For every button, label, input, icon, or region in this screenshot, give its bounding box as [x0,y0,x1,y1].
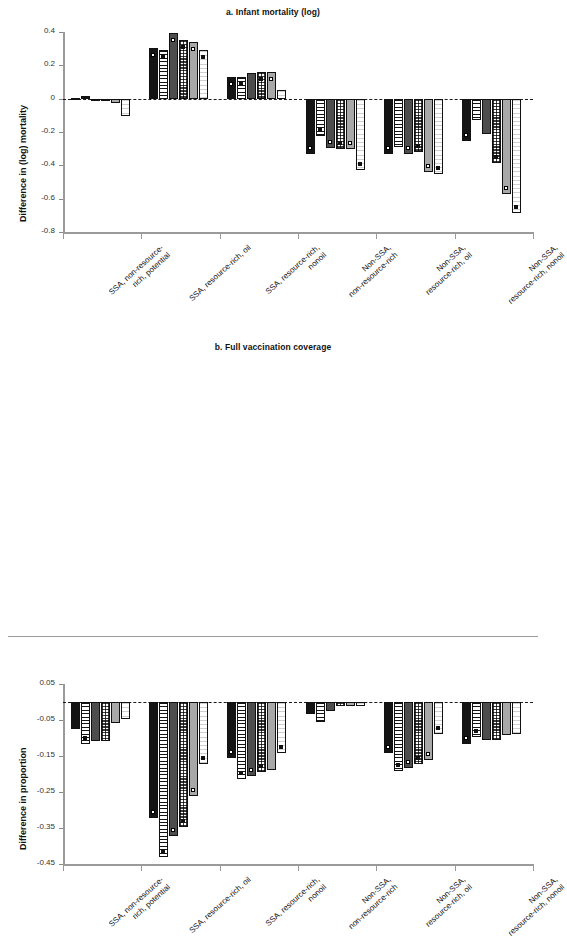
panel-a-plot-area: 0.40.20-0.2-0.4-0.6-0.8Difference in (lo… [0,0,546,330]
x-group-tick-end [533,232,534,239]
bar-b-g2-s2 [159,702,168,857]
x-category-label: Non-SSA, non-resource-rich [340,875,400,932]
y-tick-mark [59,32,63,33]
bar-b-g1-s6 [121,702,130,719]
bar-a-g1-s6 [121,99,130,117]
significance-marker [151,53,155,57]
significance-marker [239,82,243,86]
significance-marker [494,155,498,159]
bar-a-g5-s2 [394,99,403,147]
x-group-tick [455,232,456,239]
y-axis-title: Difference in (log) mortality [18,105,28,222]
x-group-tick [455,864,456,871]
bar-b-g2-s4 [179,702,188,827]
y-tick-mark [59,65,63,66]
y-tick-mark [59,165,63,166]
bar-b-g1-s5 [111,702,120,723]
bar-b-g6-s6 [512,702,521,734]
figure-bottom-rule [8,636,538,637]
y-tick-mark [59,828,63,829]
panel-b-title: b. Full vaccination coverage [0,330,546,352]
significance-marker [83,736,87,740]
bar-a-g6-s2 [472,99,481,120]
bar-b-g2-s1 [149,702,158,818]
x-group-tick [376,864,377,871]
significance-marker [151,810,155,814]
bar-b-g2-s3 [169,702,178,836]
significance-marker [464,133,468,137]
bar-a-g3-s6 [277,90,286,99]
panel-b-full-vaccination: b. Full vaccination coverage 0.05-0.05-0… [0,330,546,647]
significance-marker [269,77,273,81]
x-category-label: SSA, resource-rich, oil [188,243,254,304]
significance-marker [348,141,352,145]
y-tick-label: -0.45 [19,858,55,867]
significance-marker [386,146,390,150]
significance-marker [229,750,233,754]
bar-b-g5-s3 [404,702,413,768]
significance-marker [171,38,175,42]
x-group-tick [141,232,142,239]
x-group-tick [220,864,221,871]
significance-marker [416,756,420,760]
x-group-tick [220,232,221,239]
significance-marker [426,752,430,756]
significance-marker [201,756,205,760]
significance-marker [318,128,322,132]
bar-a-g1-s4 [101,99,110,101]
significance-marker [181,45,185,49]
bar-a-g5-s5 [424,99,433,173]
x-group-tick [141,864,142,871]
significance-marker [239,771,243,775]
significance-marker [338,141,342,145]
x-group-tick [63,864,64,871]
bar-b-g2-s5 [189,702,198,796]
significance-marker [406,760,410,764]
x-group-tick [298,864,299,871]
y-axis-line [63,32,65,232]
significance-marker [249,768,253,772]
significance-marker [229,82,233,86]
bar-b-g5-s4 [414,702,423,764]
significance-marker [514,205,518,209]
significance-marker [328,140,332,144]
bar-b-g1-s3 [91,702,100,741]
bar-b-g2-s6 [199,702,208,764]
bar-b-g1-s1 [71,702,80,729]
bar-b-g3-s5 [267,702,276,770]
y-tick-label: -0.05 [19,714,55,723]
y-tick-label: -0.8 [19,226,55,235]
significance-marker [259,764,263,768]
y-axis-title: Difference in proportion [18,747,28,850]
bar-b-g6-s3 [482,702,491,740]
x-category-label: Non-SSA, resource-rich, nonoil [499,243,566,306]
x-group-tick [376,232,377,239]
bar-b-g3-s3 [247,702,256,776]
bar-a-g1-s2 [81,96,90,98]
significance-marker [191,788,195,792]
bar-b-g4-s5 [346,702,355,706]
bar-a-g3-s2 [237,77,246,99]
y-tick-mark [59,792,63,793]
bar-b-g4-s6 [356,702,365,706]
significance-marker [161,55,165,59]
bar-a-g3-s3 [247,73,256,99]
significance-marker [426,164,430,168]
bar-b-g4-s3 [326,702,335,711]
significance-marker [464,736,468,740]
x-group-tick [298,232,299,239]
bar-a-g6-s5 [502,99,511,194]
bar-a-g6-s3 [482,99,491,135]
significance-marker [436,726,440,730]
significance-marker [181,819,185,823]
bar-b-g4-s4 [336,702,345,706]
significance-marker [358,162,362,166]
y-tick-mark [59,720,63,721]
significance-marker [474,729,478,733]
y-tick-label: 0.4 [19,26,55,35]
significance-marker [161,849,165,853]
significance-marker [279,745,283,749]
bar-a-g3-s5 [267,72,276,99]
significance-marker [436,166,440,170]
